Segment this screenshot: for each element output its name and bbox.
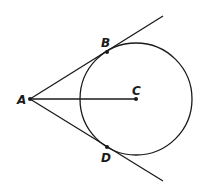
point-b xyxy=(105,50,109,54)
label-a: A xyxy=(16,93,26,107)
point-a xyxy=(28,97,32,101)
tangent-line-ad xyxy=(30,99,163,181)
label-b: B xyxy=(101,36,110,50)
tangent-circle-diagram: A B C D xyxy=(0,0,201,192)
point-d xyxy=(105,145,109,149)
label-d: D xyxy=(101,151,111,165)
tangent-line-ab xyxy=(30,16,163,99)
label-c: C xyxy=(132,84,141,98)
